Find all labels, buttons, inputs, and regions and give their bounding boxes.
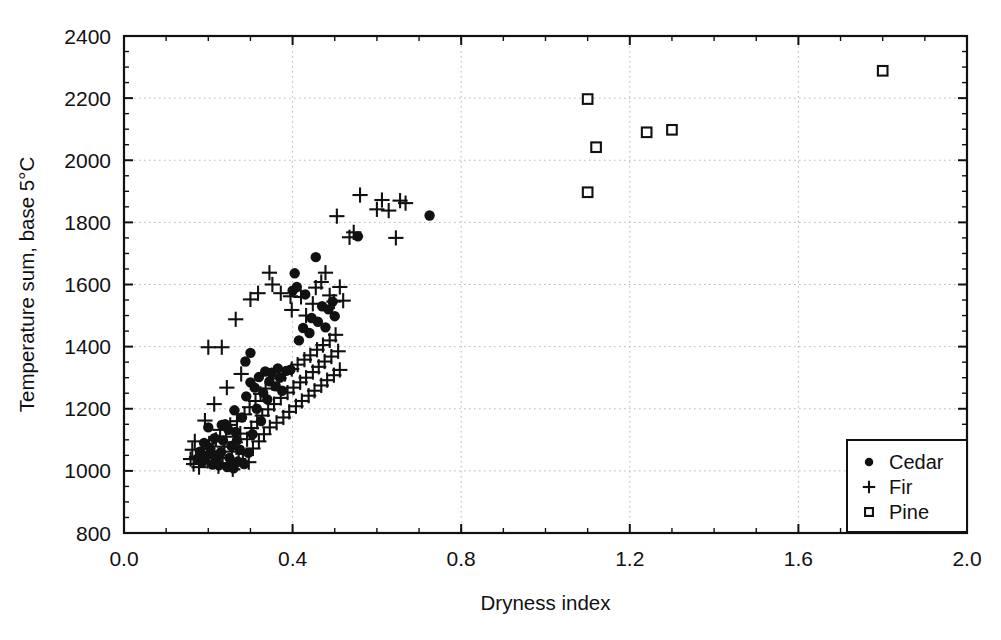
y-tick-label: 1200 bbox=[64, 397, 111, 420]
data-point-cedar bbox=[229, 405, 239, 415]
legend-label-fir: Fir bbox=[889, 476, 913, 498]
data-point-pine bbox=[865, 508, 873, 516]
data-point-cedar bbox=[300, 289, 310, 299]
data-point-fir bbox=[265, 277, 280, 292]
data-point-fir bbox=[219, 380, 234, 395]
data-point-cedar bbox=[285, 364, 295, 374]
legend-label-pine: Pine bbox=[889, 501, 929, 523]
data-point-cedar bbox=[320, 322, 330, 332]
data-point-pine bbox=[583, 94, 593, 104]
y-axis-tick-labels: 80010001200140016001800200022002400 bbox=[64, 25, 111, 545]
x-tick-label: 0.0 bbox=[109, 547, 138, 570]
x-tick-label: 1.6 bbox=[784, 547, 813, 570]
data-point-cedar bbox=[241, 391, 251, 401]
data-point-cedar bbox=[330, 311, 340, 321]
x-tick-label: 0.4 bbox=[278, 547, 308, 570]
data-point-cedar bbox=[256, 416, 266, 426]
data-point-pine bbox=[667, 125, 677, 135]
data-point-fir bbox=[201, 340, 216, 355]
data-point-fir bbox=[214, 340, 229, 355]
y-tick-label: 1800 bbox=[64, 211, 111, 234]
series-pine bbox=[583, 66, 888, 197]
data-point-cedar bbox=[327, 296, 337, 306]
y-tick-label: 2000 bbox=[64, 149, 111, 172]
x-tick-label: 2.0 bbox=[952, 547, 981, 570]
scatter-plot-figure: 800100012001400160018002000220024000.00.… bbox=[0, 0, 1001, 640]
data-point-fir bbox=[318, 265, 333, 280]
data-point-fir bbox=[352, 187, 367, 202]
data-point-fir bbox=[262, 265, 277, 280]
data-point-cedar bbox=[232, 435, 242, 445]
data-point-cedar bbox=[245, 348, 255, 358]
data-point-cedar bbox=[252, 404, 262, 414]
data-point-pine bbox=[642, 127, 652, 137]
data-point-cedar bbox=[277, 386, 287, 396]
chart-canvas: 800100012001400160018002000220024000.00.… bbox=[0, 0, 1001, 640]
y-tick-label: 2400 bbox=[64, 25, 111, 48]
x-tick-label: 0.8 bbox=[447, 547, 476, 570]
data-point-cedar bbox=[292, 282, 302, 292]
data-point-pine bbox=[878, 66, 888, 76]
x-axis-title: Dryness index bbox=[481, 591, 612, 614]
data-point-cedar bbox=[208, 450, 218, 460]
series-cedar bbox=[193, 210, 435, 473]
data-point-fir bbox=[228, 312, 243, 327]
legend-label-cedar: Cedar bbox=[889, 451, 944, 473]
data-point-fir bbox=[388, 230, 403, 245]
data-point-fir bbox=[336, 293, 351, 308]
y-tick-label: 1600 bbox=[64, 273, 111, 296]
data-point-cedar bbox=[240, 356, 250, 366]
data-point-pine bbox=[583, 187, 593, 197]
x-axis-tick-labels: 0.00.40.81.21.62.0 bbox=[109, 547, 981, 570]
data-point-fir bbox=[329, 209, 344, 224]
data-point-fir bbox=[273, 286, 288, 301]
data-point-fir bbox=[284, 302, 299, 317]
data-point-cedar bbox=[239, 459, 249, 469]
data-point-fir bbox=[332, 279, 347, 294]
data-point-cedar bbox=[217, 420, 227, 430]
data-point-cedar bbox=[290, 268, 300, 278]
data-point-cedar bbox=[353, 231, 363, 241]
data-point-cedar bbox=[262, 394, 272, 404]
data-point-pine bbox=[591, 142, 601, 152]
data-point-cedar bbox=[294, 335, 304, 345]
legend: CedarFirPine bbox=[847, 440, 967, 532]
data-point-fir bbox=[381, 203, 396, 218]
data-point-cedar bbox=[247, 429, 257, 439]
data-point-cedar bbox=[865, 458, 874, 467]
y-tick-label: 2200 bbox=[64, 87, 111, 110]
y-axis-title: Temperature sum, base 5°C bbox=[15, 157, 38, 413]
data-point-cedar bbox=[203, 422, 213, 432]
y-tick-label: 800 bbox=[76, 522, 111, 545]
y-tick-label: 1000 bbox=[64, 459, 111, 482]
series-fir bbox=[183, 187, 413, 476]
data-point-fir bbox=[207, 396, 222, 411]
y-tick-label: 1400 bbox=[64, 335, 111, 358]
data-point-cedar bbox=[237, 412, 247, 422]
data-point-cedar bbox=[311, 252, 321, 262]
x-tick-label: 1.2 bbox=[615, 547, 644, 570]
data-point-cedar bbox=[304, 328, 314, 338]
grid-lines bbox=[124, 36, 967, 533]
data-point-cedar bbox=[243, 448, 253, 458]
data-point-cedar bbox=[424, 210, 434, 220]
